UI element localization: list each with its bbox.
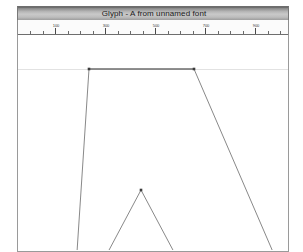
window-title: Glyph - A from unnamed font [18, 7, 289, 20]
outline-control-point[interactable] [140, 189, 143, 192]
ruler-tick-label: 100 [53, 24, 60, 28]
ruler-tick-minor [93, 31, 94, 34]
contour-inner-counter [108, 190, 174, 250]
glyph-editor-window: Glyph - A from unnamed font 100300500700… [17, 6, 289, 252]
glyph-contours-group [77, 69, 273, 250]
ruler-tick-label: 500 [153, 24, 160, 28]
outline-control-point[interactable] [193, 68, 196, 71]
ruler-tick-minor [168, 31, 169, 34]
horizontal-ruler[interactable]: 100300500700900 [17, 20, 289, 35]
ruler-tick-minor [30, 31, 31, 34]
glyph-canvas[interactable] [17, 35, 289, 252]
ruler-tick-minor [180, 31, 181, 34]
ruler-tick-minor [193, 31, 194, 34]
ruler-tick-label: 700 [203, 24, 210, 28]
contour-segment-right-stem [194, 69, 273, 250]
ruler-tick-minor [280, 31, 281, 34]
glyph-editor-window-root: Glyph - A from unnamed font 100300500700… [0, 0, 303, 252]
ruler-tick-major [55, 28, 56, 34]
ruler-tick-major [155, 28, 156, 34]
contour-segment-left-stem [77, 69, 89, 250]
ruler-tick-minor [80, 31, 81, 34]
ruler-tick-major [205, 28, 206, 34]
ruler-tick-minor [43, 31, 44, 34]
ruler-tick-minor [118, 31, 119, 34]
ruler-tick-minor [243, 31, 244, 34]
outline-control-point[interactable] [88, 68, 91, 71]
glyph-outline-svg [18, 35, 288, 250]
ruler-tick-label: 300 [103, 24, 110, 28]
ruler-tick-minor [230, 31, 231, 34]
ruler-tick-minor [218, 31, 219, 34]
control-points-group [88, 68, 196, 192]
ruler-tick-major [255, 28, 256, 34]
ruler-tick-minor [143, 31, 144, 34]
ruler-tick-major [105, 28, 106, 34]
window-titlebar[interactable]: Glyph - A from unnamed font [17, 6, 289, 20]
ruler-tick-label: 900 [253, 24, 260, 28]
ruler-tick-minor [268, 31, 269, 34]
ruler-tick-minor [68, 31, 69, 34]
ruler-tick-minor [130, 31, 131, 34]
